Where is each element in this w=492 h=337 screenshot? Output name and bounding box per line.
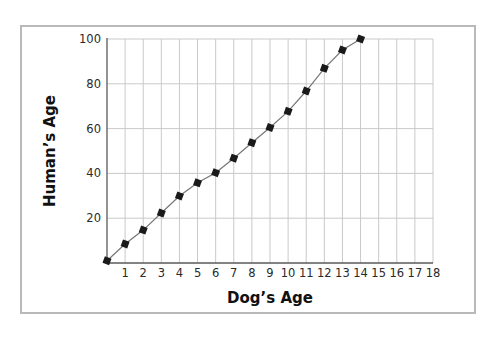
x-tick-label: 2: [140, 266, 147, 280]
y-tick-label: 80: [86, 77, 101, 91]
x-tick-label: 7: [230, 266, 237, 280]
y-tick-label: 100: [79, 32, 101, 46]
data-point-marker: [356, 35, 365, 44]
x-tick-label: 9: [266, 266, 273, 280]
x-tick-label: 4: [176, 266, 183, 280]
x-tick-label: 3: [158, 266, 165, 280]
y-tick-label: 40: [86, 166, 101, 180]
x-tick-label: 11: [299, 266, 314, 280]
x-tick-label: 12: [317, 266, 332, 280]
x-tick-label: 8: [248, 266, 255, 280]
data-point-marker: [193, 178, 202, 187]
x-tick-label: 18: [426, 266, 441, 280]
x-tick-label: 1: [121, 266, 128, 280]
y-tick-label: 60: [86, 122, 101, 136]
y-axis-tick-labels: 20406080100: [79, 32, 101, 225]
x-tick-label: 15: [371, 266, 386, 280]
grid-lines: [107, 39, 433, 263]
x-tick-label: 16: [389, 266, 404, 280]
y-tick-label: 20: [86, 211, 101, 225]
y-axis-title: Human’s Age: [41, 95, 59, 207]
line-chart: 20406080100 123456789101112131415161718 …: [0, 0, 492, 337]
x-tick-label: 17: [408, 266, 423, 280]
x-tick-label: 5: [194, 266, 201, 280]
x-axis-tick-labels: 123456789101112131415161718: [121, 266, 440, 280]
x-axis-title: Dog’s Age: [227, 289, 313, 307]
x-tick-label: 10: [281, 266, 296, 280]
x-tick-label: 6: [212, 266, 219, 280]
x-tick-label: 13: [335, 266, 350, 280]
x-tick-label: 14: [353, 266, 368, 280]
